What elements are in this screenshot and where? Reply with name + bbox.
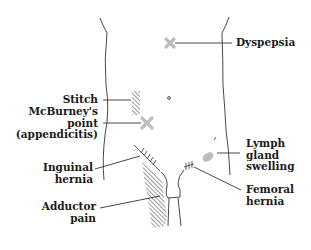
torso-right-outline bbox=[222, 17, 230, 175]
groin-outline bbox=[161, 170, 184, 198]
femoral-hernia-marks bbox=[184, 161, 194, 170]
dyspepsia-marker bbox=[166, 39, 174, 47]
lymph-gland-marker bbox=[201, 150, 215, 163]
label-adductor-pain: Adductor pain bbox=[42, 201, 96, 224]
femoral-leader bbox=[194, 167, 241, 190]
label-mcburney: McBurney's point (appendicitis) bbox=[16, 106, 98, 141]
torso-left-outline bbox=[100, 18, 108, 180]
label-dyspepsia: Dyspepsia bbox=[236, 37, 295, 49]
inner-thigh-left bbox=[168, 198, 169, 226]
adductor-area bbox=[142, 160, 167, 228]
label-femoral-hernia: Femoral hernia bbox=[246, 184, 294, 207]
inner-thigh-right bbox=[178, 198, 181, 226]
inguinal-leader bbox=[95, 156, 140, 169]
label-inguinal-hernia: Inguinal hernia bbox=[43, 162, 93, 185]
mcburney-marker bbox=[142, 118, 152, 128]
lymph-mark bbox=[214, 137, 216, 140]
label-stitch: Stitch bbox=[63, 94, 98, 106]
stitch-area bbox=[132, 91, 140, 115]
label-lymph-gland: Lymph gland swelling bbox=[246, 138, 295, 173]
umbilicus bbox=[168, 97, 171, 100]
